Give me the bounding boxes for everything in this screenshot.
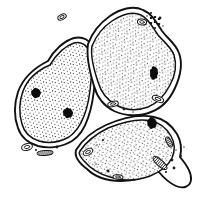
extracellular-speck bbox=[95, 163, 96, 164]
cell-left-organelle-hatching bbox=[39, 151, 51, 156]
extracellular-speck bbox=[180, 155, 182, 157]
extracellular-speck bbox=[159, 17, 162, 20]
extracellular-speck bbox=[150, 12, 152, 14]
cell-illustration bbox=[0, 0, 199, 201]
extracellular-speck bbox=[35, 149, 37, 151]
cell-top-right-organelle-vesicle-1 bbox=[137, 18, 147, 25]
cell-top-right-nucleus-edge bbox=[155, 76, 158, 79]
cell-left-nucleus-edge bbox=[32, 94, 34, 96]
cell-left-nucleus-edge bbox=[69, 115, 72, 118]
cell-left-nucleus-edge bbox=[37, 95, 40, 98]
extracellular-speck bbox=[162, 25, 163, 26]
extracellular-speck bbox=[146, 15, 147, 16]
cell-left-nucleus-edge bbox=[38, 89, 40, 91]
extracellular-speck bbox=[56, 146, 59, 149]
extracellular-speck bbox=[183, 146, 184, 147]
cell-left-nucleus-edge bbox=[63, 114, 65, 116]
cell-left-nucleus-edge bbox=[70, 109, 72, 111]
cell-left-nucleus-edge bbox=[34, 95, 37, 98]
extracellular-speck bbox=[132, 111, 133, 112]
cell-left-nucleus-edge bbox=[66, 108, 69, 111]
extracellular-speck bbox=[107, 170, 110, 173]
cell-bottom-right-nucleus-edge bbox=[154, 119, 156, 121]
extracellular-speck bbox=[96, 144, 97, 145]
cell-top-right-nucleus-edge bbox=[156, 72, 158, 74]
extracellular-speck bbox=[102, 139, 104, 141]
cell-bottom-right-nucleus-edge bbox=[147, 120, 150, 123]
cell-left-nucleus-edge bbox=[39, 92, 41, 94]
cell-left-nucleus-edge bbox=[66, 115, 69, 118]
cell-top-right-nucleus-edge bbox=[150, 69, 153, 72]
extracellular-speck bbox=[123, 108, 126, 111]
extracellular-speck bbox=[175, 149, 176, 150]
cell-left-nucleus-edge bbox=[31, 90, 34, 93]
cell-top-right-nucleus-edge bbox=[150, 74, 152, 76]
cell-left-nucleus-edge bbox=[34, 88, 37, 91]
extracellular-speck bbox=[173, 167, 176, 170]
extracellular-speck bbox=[154, 27, 156, 29]
cell-bottom-right-organelle-vesicle-4 bbox=[113, 174, 123, 179]
cell-bottom-right-nucleus-edge bbox=[153, 125, 156, 128]
extracellular-speck bbox=[171, 159, 174, 162]
cell-top-right-nucleus-edge bbox=[152, 66, 155, 69]
cell-top-right-nucleus-edge bbox=[152, 77, 155, 80]
cell-left-nucleus-edge bbox=[71, 112, 73, 114]
extracellular-speck bbox=[165, 171, 167, 173]
cell-bottom-right-nucleus-edge bbox=[150, 117, 153, 120]
cell-bottom-right-nucleus-edge bbox=[155, 122, 157, 124]
cell-left-nucleus-edge bbox=[63, 110, 66, 113]
cell-illustration-canvas bbox=[0, 0, 199, 201]
cell-bottom-right-nucleus-edge bbox=[150, 126, 153, 129]
cell-top-right-nucleus-edge bbox=[155, 68, 157, 70]
cell-bottom-right-nucleus-edge bbox=[148, 124, 150, 126]
